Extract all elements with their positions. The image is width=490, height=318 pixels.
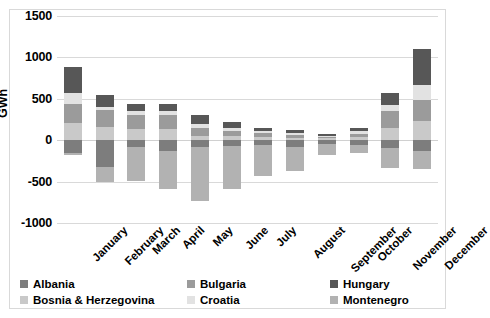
y-axis-title: GWh: [0, 89, 10, 118]
y-tick-label: 0: [45, 133, 52, 147]
bar-segment: [381, 93, 399, 105]
bar-segment: [254, 145, 272, 176]
bar-segment: [381, 128, 399, 140]
bar-segment: [318, 144, 336, 155]
bar-segment: [127, 140, 145, 147]
bar-segment: [64, 140, 82, 152]
bar-segment: [381, 105, 399, 112]
bar-segment: [350, 145, 368, 153]
x-axis-tick-labels: JanuaryFebruaryMarchAprilMayJuneJulyAugu…: [57, 224, 438, 276]
legend-item: Montenegro: [330, 294, 409, 306]
x-tick-label: May: [210, 224, 234, 248]
y-axis-tick-labels: 150010005000-500-1000: [0, 16, 52, 223]
legend-label: Bulgaria: [200, 278, 246, 290]
legend-swatch-icon: [330, 280, 338, 288]
bar-segment: [127, 111, 145, 116]
legend-label: Croatia: [200, 294, 240, 306]
bar-segment: [318, 136, 336, 137]
y-tick-label: 1500: [25, 9, 52, 23]
bar-segment: [159, 129, 177, 140]
bar-segment: [350, 128, 368, 131]
bar-segment: [191, 147, 209, 201]
bar-column: [191, 16, 209, 223]
legend-swatch-icon: [20, 280, 28, 288]
bar-segment: [64, 104, 82, 123]
bar-segment: [350, 134, 368, 138]
bar-column: [413, 16, 431, 223]
bar-segment: [127, 129, 145, 140]
chart-legend: AlbaniaBosnia & HerzegovinaBulgariaCroat…: [12, 278, 443, 310]
bar-segment: [381, 111, 399, 128]
bar-segment: [254, 131, 272, 133]
bar-segment: [254, 133, 272, 137]
bar-column: [381, 16, 399, 223]
bar-segment: [127, 147, 145, 181]
bar-segment: [96, 140, 114, 166]
bar-segment: [286, 130, 304, 133]
bar-segment: [286, 140, 304, 147]
bar-segment: [191, 140, 209, 147]
bar-column: [96, 16, 114, 223]
bar-segment: [286, 147, 304, 171]
bar-segment: [127, 104, 145, 111]
bar-segment: [381, 148, 399, 167]
bar-segment: [286, 135, 304, 138]
bar-column: [159, 16, 177, 223]
bar-segment: [254, 128, 272, 131]
bar-segment: [96, 107, 114, 111]
bar-segment: [413, 100, 431, 122]
x-tick-label: April: [180, 224, 207, 251]
bar-segment: [64, 67, 82, 93]
legend-label: Albania: [33, 278, 75, 290]
y-tick-label: 1000: [25, 50, 52, 64]
bar-segment: [413, 151, 431, 169]
legend-swatch-icon: [187, 280, 195, 288]
legend-label: Hungary: [343, 278, 390, 290]
bar-segment: [96, 95, 114, 106]
y-tick-label: 500: [32, 92, 52, 106]
legend-label: Montenegro: [343, 294, 409, 306]
legend-label: Bosnia & Herzegovina: [33, 294, 154, 306]
bar-segment: [286, 133, 304, 135]
bar-segment: [191, 115, 209, 124]
bar-column: [318, 16, 336, 223]
bar-segment: [350, 131, 368, 133]
legend-swatch-icon: [330, 296, 338, 304]
bar-segment: [318, 136, 336, 138]
plot-area: [57, 16, 438, 223]
bar-segment: [318, 134, 336, 136]
legend-item: Bulgaria: [187, 278, 246, 290]
bar-segment: [413, 121, 431, 140]
bar-column: [286, 16, 304, 223]
bar-segment: [64, 93, 82, 104]
bar-segment: [127, 115, 145, 129]
bar-segment: [223, 146, 241, 189]
bar-segment: [413, 49, 431, 85]
bar-column: [64, 16, 82, 223]
bar-segment: [159, 140, 177, 151]
bar-segment: [191, 128, 209, 135]
legend-item: Albania: [20, 278, 75, 290]
bar-segment: [381, 140, 399, 148]
bar-segment: [223, 131, 241, 137]
legend-swatch-icon: [20, 296, 28, 304]
bar-segment: [223, 122, 241, 127]
bar-column: [254, 16, 272, 223]
bar-column: [127, 16, 145, 223]
bar-segment: [96, 127, 114, 140]
legend-item: Bosnia & Herzegovina: [20, 294, 154, 306]
legend-item: Croatia: [187, 294, 240, 306]
bar-segment: [159, 111, 177, 116]
bar-segment: [96, 167, 114, 182]
legend-swatch-icon: [187, 296, 195, 304]
bar-segment: [223, 128, 241, 131]
bar-segment: [64, 123, 82, 140]
bar-segment: [159, 104, 177, 111]
x-tick-label: July: [274, 224, 299, 249]
y-tick-label: -500: [28, 175, 52, 189]
y-tick-label: -1000: [21, 216, 52, 230]
bar-column: [350, 16, 368, 223]
bar-segment: [159, 151, 177, 189]
x-tick-label: June: [243, 224, 270, 251]
